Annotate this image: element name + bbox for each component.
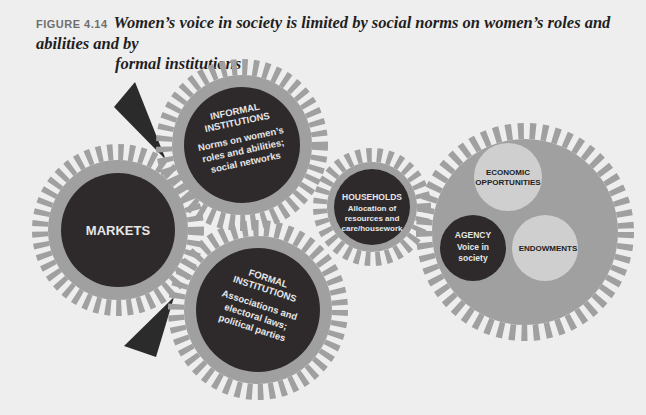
agency-desc-2: society (458, 253, 488, 263)
gears-diagram: MARKETS INFORMAL INSTITUTIONS Norms on w… (0, 0, 646, 415)
economic-label-2: OPPORTUNITIES (475, 178, 541, 187)
agency-title: AGENCY (455, 230, 492, 240)
households-desc-3: care/housework (342, 224, 403, 233)
formal-circle (196, 248, 320, 372)
economic-opportunities-circle (474, 143, 542, 211)
outcomes-gear: ECONOMIC OPPORTUNITIES ENDOWMENTS AGENCY… (424, 131, 626, 333)
households-desc-2: resources and (345, 214, 400, 223)
households-desc-1: Allocation of (348, 204, 397, 213)
economic-label-1: ECONOMIC (486, 168, 530, 177)
agency-desc-1: Voice in (457, 242, 489, 252)
endowments-label: ENDOWMENTS (519, 244, 578, 253)
markets-label: MARKETS (86, 223, 151, 238)
households-title: HOUSEHOLDS (342, 192, 402, 202)
formal-institutions-gear: FORMAL INSTITUTIONS Associations and ele… (176, 228, 340, 392)
households-gear: HOUSEHOLDS Allocation of resources and c… (320, 155, 424, 259)
